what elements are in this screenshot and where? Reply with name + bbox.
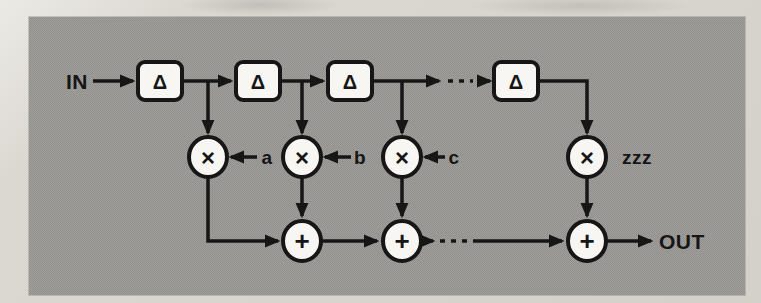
output-label: OUT xyxy=(659,230,705,253)
delay-block-2: Δ xyxy=(236,62,280,100)
wire-multiplier1-to-adder1 xyxy=(208,177,278,241)
multiply-symbol: × xyxy=(201,144,215,171)
delay-block-1: Δ xyxy=(138,62,182,100)
adder-1: + xyxy=(283,221,321,261)
delta-symbol: Δ xyxy=(251,71,265,93)
scanned-page: Δ Δ Δ Δ × xyxy=(0,0,761,303)
coefficient-zzz-label: zzz xyxy=(622,147,652,168)
delay-block-3: Δ xyxy=(328,62,372,100)
coefficient-b-label: b xyxy=(354,147,366,168)
multiplier-2: × xyxy=(283,137,321,177)
coefficient-a-label: a xyxy=(261,147,272,168)
multiplier-3: × xyxy=(383,137,421,177)
delta-symbol: Δ xyxy=(343,71,357,93)
multiplier-1: × xyxy=(189,137,227,177)
multiply-symbol: × xyxy=(295,144,309,171)
coefficient-c-label: c xyxy=(448,147,459,168)
adder-3: + xyxy=(568,221,606,261)
plus-symbol: + xyxy=(294,226,309,256)
adder-2: + xyxy=(383,221,421,261)
delay-block-4: Δ xyxy=(494,62,538,100)
delta-symbol: Δ xyxy=(509,71,523,93)
scan-smudge xyxy=(180,0,340,16)
wire-delay4-to-multiplier4 xyxy=(538,81,587,133)
fir-filter-diagram: Δ Δ Δ Δ × xyxy=(29,17,745,295)
input-label: IN xyxy=(66,70,88,93)
multiply-symbol: × xyxy=(580,144,594,171)
multiplier-4: × xyxy=(568,137,606,177)
multiply-symbol: × xyxy=(395,144,409,171)
diagram-panel: Δ Δ Δ Δ × xyxy=(29,17,745,295)
plus-symbol: + xyxy=(579,226,594,256)
plus-symbol: + xyxy=(394,226,409,256)
scan-smudge xyxy=(470,0,690,16)
delta-symbol: Δ xyxy=(153,71,167,93)
